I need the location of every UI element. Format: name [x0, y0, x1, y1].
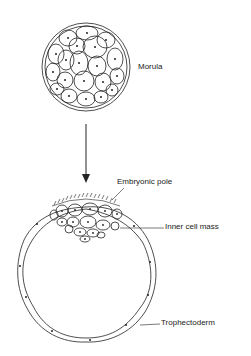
morula-illustration [42, 23, 130, 111]
embryonic-pole-label: Embryonic pole [117, 177, 172, 186]
blastocyst-illustration [18, 193, 156, 342]
trophectoderm-label: Trophectoderm [161, 318, 215, 327]
leader-lines [112, 188, 164, 325]
transition-arrow [82, 124, 90, 183]
morula-label: Morula [138, 62, 162, 71]
inner-cell-mass-label: Inner cell mass [165, 222, 219, 231]
